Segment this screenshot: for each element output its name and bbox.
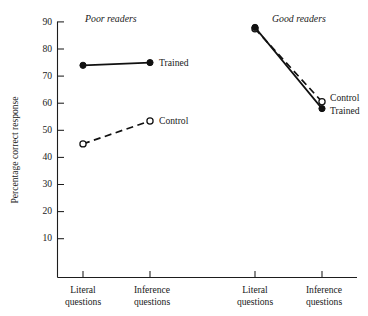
x-tick-label-2-line1: Inference <box>134 284 170 295</box>
series-line-good-trained <box>255 27 322 108</box>
series-line-poor-trained <box>83 63 150 66</box>
series-line-poor-control <box>83 121 150 144</box>
panel-title-good-readers: Good readers <box>272 13 326 24</box>
x-tick-label-4-line1: Inference <box>306 284 342 295</box>
data-point-poor-control-inference <box>147 118 153 124</box>
data-point-good-trained-inference <box>319 106 325 112</box>
y-tick-label-60: 60 <box>42 97 52 108</box>
x-axis-tick-labels: Literal questions Inference questions Li… <box>65 284 343 307</box>
y-tick-label-50: 50 <box>42 124 52 135</box>
y-tick-label-10: 10 <box>42 232 52 243</box>
y-axis-tick-labels: 90 80 70 60 50 40 30 20 10 <box>42 16 52 244</box>
x-tick-label-3-line1: Literal <box>242 284 268 295</box>
series-label-poor-control: Control <box>159 115 189 126</box>
x-tick-label-2-line2: questions <box>134 296 171 307</box>
y-tick-label-70: 70 <box>42 70 52 81</box>
y-tick-label-80: 80 <box>42 43 52 54</box>
series-label-poor-trained: Trained <box>159 57 189 68</box>
y-tick-label-90: 90 <box>42 16 52 27</box>
series-label-good-trained: Trained <box>330 105 360 116</box>
data-point-good-trained-literal <box>252 24 258 30</box>
data-point-poor-trained-literal <box>80 62 86 68</box>
series-label-good-control: Control <box>330 92 360 103</box>
data-point-poor-control-literal <box>80 141 86 147</box>
y-tick-label-20: 20 <box>42 205 52 216</box>
panel-title-poor-readers: Poor readers <box>84 13 137 24</box>
y-axis-ticks <box>58 22 65 239</box>
y-tick-label-30: 30 <box>42 178 52 189</box>
panel-poor-readers: Poor readers Trained Control <box>80 13 189 147</box>
x-tick-label-1-line2: questions <box>65 296 102 307</box>
x-axis-ticks <box>83 271 322 278</box>
x-tick-label-1-line1: Literal <box>70 284 96 295</box>
axes-group <box>58 22 358 278</box>
line-chart-svg: 90 80 70 60 50 40 30 20 10 Percentage co… <box>0 0 368 316</box>
y-tick-label-40: 40 <box>42 151 52 162</box>
chart-container: 90 80 70 60 50 40 30 20 10 Percentage co… <box>0 0 368 316</box>
data-point-good-control-inference <box>319 99 325 105</box>
x-tick-label-3-line2: questions <box>237 296 274 307</box>
data-point-poor-trained-inference <box>147 60 153 66</box>
x-tick-label-4-line2: questions <box>306 296 343 307</box>
y-axis-title: Percentage correct response <box>9 96 20 203</box>
panel-good-readers: Good readers Control Trained <box>252 13 360 116</box>
